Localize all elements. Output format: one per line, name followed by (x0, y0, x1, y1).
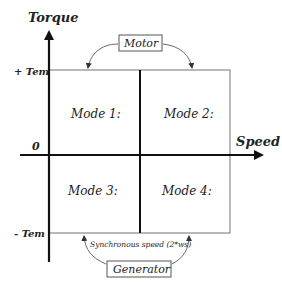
torque-axis-label: Torque (28, 10, 79, 25)
motor-label: Motor (123, 37, 159, 50)
mode-2-label: Mode 2: (163, 107, 214, 121)
generator-label: Generator (113, 263, 171, 276)
tick-minus-tem: - Tem (14, 228, 45, 239)
synchronous-speed-note: Synchronous speed (2*ws) (90, 240, 191, 249)
tick-plus-tem: + Tem (14, 66, 49, 77)
torque-speed-diagram: Torque Speed 0 + Tem - Tem Mode 1: Mode … (0, 0, 282, 294)
motor-arrow-left (88, 44, 118, 68)
motor-arrow-right (163, 44, 192, 68)
mode-3-label: Mode 3: (67, 184, 118, 198)
mode-4-label: Mode 4: (161, 184, 212, 198)
speed-axis-label: Speed (236, 134, 280, 149)
mode-1-label: Mode 1: (70, 107, 121, 121)
origin-label: 0 (32, 140, 40, 153)
